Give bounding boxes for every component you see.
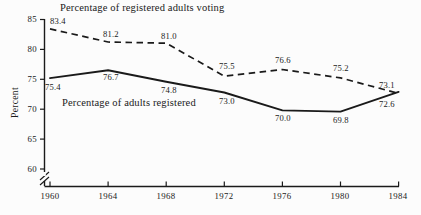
y-tick-label-70: 70 xyxy=(19,105,37,114)
y-tick-label-85: 85 xyxy=(19,15,37,24)
x-tick-label-1972: 1972 xyxy=(204,192,244,201)
x-tick-label-1960: 1960 xyxy=(30,192,70,201)
value-label-registered-1960: 75.4 xyxy=(45,83,61,92)
y-tick-label-75: 75 xyxy=(19,75,37,84)
y-tick-label-80: 80 xyxy=(19,45,37,54)
x-tick-label-1976: 1976 xyxy=(262,192,302,201)
value-label-registered-1984: 73.1 xyxy=(379,81,395,90)
chart-title-voting: Percentage of registered adults voting xyxy=(60,3,224,14)
value-label-registered-1968: 74.8 xyxy=(161,86,177,95)
value-label-registered-1980: 69.8 xyxy=(333,116,349,125)
x-tick-label-1968: 1968 xyxy=(146,192,186,201)
value-label-voting-1980: 75.2 xyxy=(333,64,349,73)
value-label-registered-1976: 70.0 xyxy=(275,114,291,123)
y-tick-label-65: 65 xyxy=(19,135,37,144)
value-label-registered-1972: 73.0 xyxy=(219,97,235,106)
x-tick-label-1980: 1980 xyxy=(320,192,360,201)
x-tick-label-1964: 1964 xyxy=(88,192,128,201)
series-label-registered: Percentage of adults registered xyxy=(62,98,196,109)
axis-break-icon xyxy=(40,172,49,186)
x-tick-label-1984: 1984 xyxy=(378,192,418,201)
value-label-registered-1964: 76.7 xyxy=(103,73,119,82)
y-tick-label-60: 60 xyxy=(19,165,37,174)
value-label-voting-1964: 81.2 xyxy=(103,30,119,39)
value-label-voting-1968: 81.0 xyxy=(161,32,177,41)
value-label-voting-1972: 75.5 xyxy=(219,62,235,71)
x-tick-marks xyxy=(50,182,399,187)
value-label-voting-1984: 72.6 xyxy=(379,100,395,109)
chart-figure: Percentage of registered adults voting P… xyxy=(0,0,421,215)
value-label-voting-1960: 83.4 xyxy=(50,17,66,26)
value-label-voting-1976: 76.6 xyxy=(275,56,291,65)
